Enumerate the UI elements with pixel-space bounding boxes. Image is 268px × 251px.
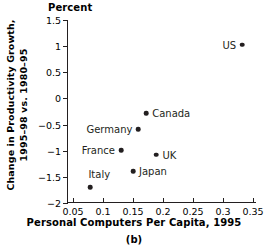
x-axis-tick-label: 0.05 [62,206,83,217]
x-axis-tick [193,198,194,203]
data-point-label-italy: Italy [88,169,110,180]
data-point-label-uk: UK [162,149,176,160]
x-axis-tick [163,198,164,203]
x-axis-tick [133,198,134,203]
y-axis-tick [63,98,68,99]
data-point-label-france: France [82,145,115,156]
x-axis-tick [253,198,254,203]
x-axis-tick [103,198,104,203]
plot-area: 1.510.50−0.5−1−1.5−20.050.10.150.20.250.… [67,20,256,203]
y-axis-line [67,20,68,203]
x-axis-tick-label: 0.2 [155,206,170,217]
y-axis-title-line1: Change in Productivity Growth, [5,19,16,190]
scatter-chart-figure: Percent Change in Productivity Growth, 1… [0,0,268,251]
x-axis-line [67,202,256,203]
data-point-label-canada: Canada [152,108,190,119]
x-axis-tick-label: 0.1 [95,206,110,217]
y-axis-tick-label: 1 [55,41,61,52]
data-point-us [240,42,245,47]
y-axis-title: Change in Productivity Growth, 1995–98 v… [0,0,34,210]
x-axis-tick [73,198,74,203]
x-axis-tick-label: 0.25 [182,206,203,217]
x-axis-tick-label: 0.35 [242,206,263,217]
data-point-italy [88,185,93,190]
y-axis-tick [63,125,68,126]
y-axis-tick-label: 0.5 [46,67,61,78]
data-point-japan [131,169,136,174]
y-axis-unit-label: Percent [48,2,92,13]
y-axis-tick-label: 0 [55,93,61,104]
x-axis-tick-label: 0.3 [215,206,230,217]
data-point-label-us: US [223,39,237,50]
x-axis-title: Personal Computers Per Capita, 1995 [0,217,268,228]
y-axis-tick [63,151,68,152]
y-axis-tick-label: −0.5 [38,119,61,130]
data-point-france [119,148,124,153]
y-axis-tick [63,20,68,21]
figure-caption: (b) [0,234,268,245]
data-point-label-japan: Japan [139,166,167,177]
x-axis-tick-label: 0.15 [122,206,143,217]
x-axis-tick [223,198,224,203]
y-axis-tick [63,203,68,204]
y-axis-tick-label: −2 [47,198,61,209]
data-point-germany [136,127,141,132]
y-axis-tick [63,177,68,178]
data-point-label-germany: Germany [86,124,132,135]
y-axis-tick-label: −1 [47,145,61,156]
data-point-canada [144,111,149,116]
data-point-uk [154,153,159,158]
y-axis-tick-label: 1.5 [46,15,61,26]
y-axis-title-line2: 1995–98 vs. 1980–95 [17,49,28,162]
y-axis-tick [63,72,68,73]
y-axis-tick [63,46,68,47]
y-axis-tick-label: −1.5 [38,171,61,182]
